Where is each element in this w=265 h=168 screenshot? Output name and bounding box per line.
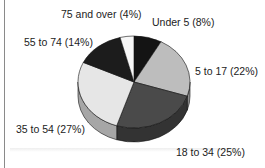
label-under-5: Under 5 (8%) xyxy=(152,16,214,28)
label-35-to-54: 35 to 54 (27%) xyxy=(16,123,85,135)
label-18-to-34: 18 to 34 (25%) xyxy=(176,146,245,158)
label-5-to-17: 5 to 17 (22%) xyxy=(195,65,258,77)
label-55-to-74: 55 to 74 (14%) xyxy=(24,36,93,48)
pie-chart xyxy=(0,0,265,168)
label-75-and-over: 75 and over (4%) xyxy=(61,8,142,20)
